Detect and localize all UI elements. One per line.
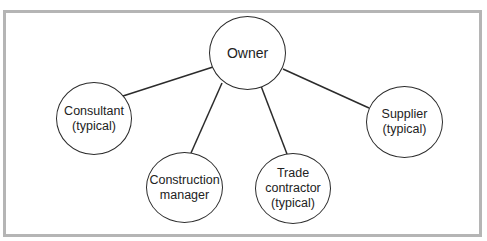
node-label: Owner xyxy=(227,46,268,61)
node-label: (typical) xyxy=(72,119,116,134)
edge-owner-supplier xyxy=(283,69,369,108)
node-trade-contractor: Trade contractor (typical) xyxy=(255,153,331,224)
node-label: Trade xyxy=(277,166,309,181)
edge-owner-construction-manager xyxy=(191,83,222,153)
node-supplier: Supplier (typical) xyxy=(366,86,443,158)
node-label: (typical) xyxy=(383,122,427,137)
node-owner: Owner xyxy=(209,16,286,90)
node-label: manager xyxy=(160,188,209,203)
edge-owner-trade-contractor xyxy=(261,86,287,154)
node-label: Consultant xyxy=(64,104,124,119)
node-label: Construction xyxy=(149,173,219,188)
node-consultant: Consultant (typical) xyxy=(56,82,132,155)
node-label: Supplier xyxy=(382,107,428,122)
node-construction-manager: Construction manager xyxy=(146,152,223,223)
node-label: (typical) xyxy=(271,196,315,211)
node-label: contractor xyxy=(265,181,321,196)
edge-owner-consultant xyxy=(123,67,213,96)
